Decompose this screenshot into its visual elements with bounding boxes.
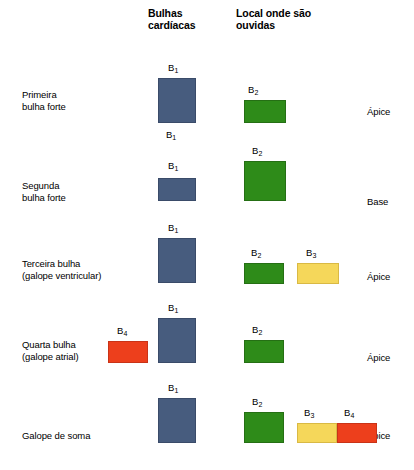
location-label-apice-2: Ápice <box>367 271 390 282</box>
row-label-primeira: Primeira bulha forte <box>22 89 66 112</box>
sound-bar-label-b4-row4: B4 <box>344 408 354 419</box>
sound-index: 2 <box>255 89 259 96</box>
sound-bar-b2-row1 <box>244 161 286 201</box>
sound-index: 1 <box>175 165 179 172</box>
sound-index: 2 <box>259 401 263 408</box>
sound-letter: B <box>168 222 174 233</box>
sound-bar-label-b1-row3: B1 <box>168 303 178 314</box>
sound-index: 1 <box>175 307 179 314</box>
sound-index: 1 <box>175 227 179 234</box>
sound-bar-b3-row2 <box>297 263 339 284</box>
sound-bar-label-b4-row3: B4 <box>117 326 127 337</box>
sound-bar-label-b2-row2: B2 <box>251 248 261 259</box>
sound-index: 2 <box>259 329 263 336</box>
row-label-galope-de-soma: Galope de soma <box>22 430 90 442</box>
row-label-terceira-bulha: Terceira bulha (galope ventricular) <box>22 258 101 281</box>
sound-bar-b4-row4 <box>337 423 377 443</box>
location-label-apice-3: Ápice <box>367 352 390 363</box>
sound-bar-b2-row0 <box>244 100 286 123</box>
heart-sounds-diagram: Bulhas cardíacas Local onde são ouvidas … <box>0 0 414 470</box>
sound-letter: B <box>304 407 310 418</box>
sound-letter: B <box>168 382 174 393</box>
sound-bar-b1-row3 <box>158 318 196 363</box>
sound-bar-b2-row4 <box>244 412 284 443</box>
sound-bar-label-b1-row4: B1 <box>168 383 178 394</box>
sound-index: 1 <box>172 134 176 141</box>
sound-bar-b4-row3 <box>108 341 148 363</box>
sound-letter: B <box>168 302 174 313</box>
sound-bar-label-b1-row2: B1 <box>168 223 178 234</box>
sound-bar-b1-row1 <box>158 178 196 201</box>
sound-letter: B <box>168 160 174 171</box>
sound-index: 3 <box>313 252 317 259</box>
sound-bar-label-b1-row1: B1 <box>168 161 178 172</box>
sound-letter: B <box>252 145 258 156</box>
sound-bar-label-b1-row0: B1 <box>168 63 178 74</box>
sound-bar-label-b2-row4: B2 <box>252 397 262 408</box>
sound-letter: B <box>252 396 258 407</box>
sound-bar-label-b2-row3: B2 <box>252 325 262 336</box>
location-label-base-1: Base <box>367 196 388 207</box>
sound-index: 1 <box>175 67 179 74</box>
column-header-auscultation-location: Local onde são ouvidas <box>236 8 336 31</box>
sound-bar-label-b3-row2: B3 <box>306 248 316 259</box>
sound-bar-b1-row2 <box>158 238 196 283</box>
sound-index: 3 <box>311 412 315 419</box>
extra-sound-label-b1-row0: B1 <box>166 130 176 141</box>
sound-bar-b3-row4 <box>297 423 337 443</box>
sound-bar-label-b2-row0: B2 <box>248 85 258 96</box>
sound-letter: B <box>252 324 258 335</box>
sound-bar-b1-row4 <box>158 398 196 443</box>
sound-index: 2 <box>258 252 262 259</box>
sound-letter: B <box>168 62 174 73</box>
sound-bar-label-b2-row1: B2 <box>252 146 262 157</box>
column-header-heart-sounds: Bulhas cardíacas <box>148 8 228 31</box>
row-label-quarta-bulha: Quarta bulha (galope atrial) <box>22 339 79 362</box>
sound-bar-label-b3-row4: B3 <box>304 408 314 419</box>
sound-letter: B <box>248 84 254 95</box>
row-label-segunda: Segunda bulha forte <box>22 180 66 203</box>
sound-bar-b1-row0 <box>158 78 196 123</box>
sound-letter: B <box>251 247 257 258</box>
sound-bar-b2-row2 <box>244 263 284 284</box>
sound-index: 2 <box>259 150 263 157</box>
sound-index: 4 <box>124 330 128 337</box>
sound-index: 4 <box>351 412 355 419</box>
sound-letter: B <box>117 325 123 336</box>
location-label-apice-0: Ápice <box>367 106 390 117</box>
sound-bar-b2-row3 <box>244 340 284 363</box>
sound-index: 1 <box>175 387 179 394</box>
sound-letter: B <box>344 407 350 418</box>
sound-letter: B <box>306 247 312 258</box>
